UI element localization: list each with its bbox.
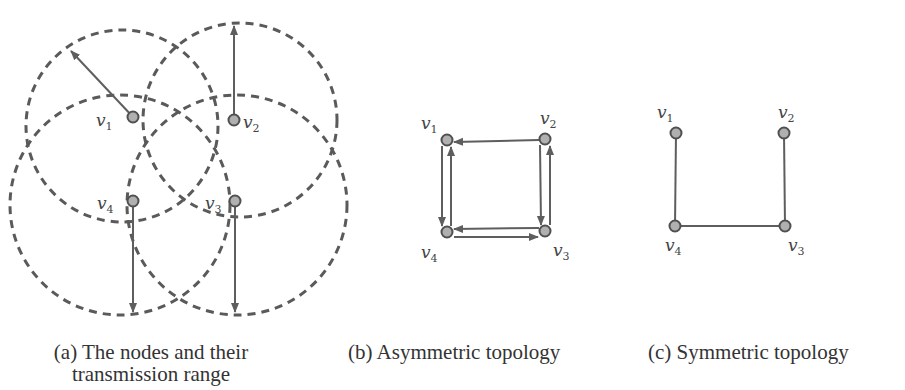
caption-a-line2: transmission range bbox=[8, 363, 294, 385]
node-v3 bbox=[230, 196, 241, 207]
node-v1 bbox=[442, 135, 453, 146]
node-label-v4: v4 bbox=[97, 193, 114, 216]
caption-a: (a) The nodes and their transmission ran… bbox=[8, 341, 294, 385]
edge-v3-v4 bbox=[454, 228, 539, 229]
node-label-v2: v2 bbox=[778, 102, 795, 125]
node-label-v2: v2 bbox=[243, 112, 260, 135]
node-v4 bbox=[128, 196, 139, 207]
caption-a-line1: (a) The nodes and their bbox=[8, 341, 294, 363]
node-label-v4: v4 bbox=[421, 242, 438, 265]
node-label-v1: v1 bbox=[96, 110, 113, 133]
node-v4 bbox=[442, 227, 453, 238]
node-label-v4: v4 bbox=[665, 235, 682, 258]
topology-figure: v1v2v3v4 v1v2v3v4 v1v2v3v4 bbox=[0, 0, 905, 390]
edge-v1-v4 bbox=[675, 133, 676, 226]
panel-b-asymmetric-topology: v1v2v3v4 bbox=[421, 108, 570, 265]
panel-c-symmetric-topology: v1v2v3v4 bbox=[657, 102, 805, 258]
range-arrow-v1 bbox=[71, 51, 133, 117]
panel-a-transmission-range: v1v2v3v4 bbox=[10, 23, 347, 315]
node-label-v3: v3 bbox=[788, 235, 805, 258]
range-circle-v4 bbox=[10, 95, 230, 315]
caption-c: (c) Symmetric topology bbox=[648, 341, 849, 363]
edge-v2-v3 bbox=[540, 145, 541, 225]
node-label-v2: v2 bbox=[540, 108, 557, 131]
range-circle-v1 bbox=[26, 30, 218, 222]
node-v2 bbox=[540, 134, 551, 145]
node-label-v3: v3 bbox=[553, 240, 570, 263]
node-v3 bbox=[540, 226, 551, 237]
node-label-v1: v1 bbox=[657, 102, 674, 125]
node-v4 bbox=[670, 221, 681, 232]
edge-v2-v1 bbox=[454, 140, 539, 142]
edge-v2-v3 bbox=[784, 133, 785, 226]
node-v1 bbox=[128, 112, 139, 123]
node-v3 bbox=[780, 221, 791, 232]
caption-b: (b) Asymmetric topology bbox=[348, 341, 560, 363]
node-v2 bbox=[779, 128, 790, 139]
node-label-v3: v3 bbox=[205, 193, 222, 216]
node-label-v1: v1 bbox=[421, 113, 438, 136]
node-v2 bbox=[229, 115, 240, 126]
node-v1 bbox=[671, 128, 682, 139]
